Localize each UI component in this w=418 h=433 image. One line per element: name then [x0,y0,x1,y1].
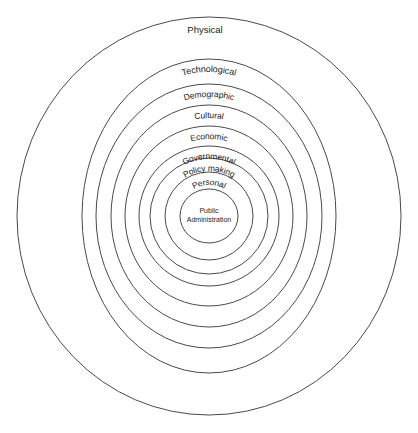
ring-label-text-economic: Economic [189,131,229,144]
concentric-circles-diagram: PhysicalTechnologicalDemographicCultural… [0,0,418,433]
ring-label-economic: Economic [189,131,229,144]
ring-label-cultural: Cultural [194,110,225,121]
ring-label-physical: Physical [187,24,222,35]
core-group: Public Administration [180,189,238,243]
core-label-line2: Administration [187,216,231,223]
ring-label-text-demographic: Demographic [183,89,237,103]
ring-label-technological: Technological [181,64,238,78]
diagram-canvas: PhysicalTechnologicalDemographicCultural… [0,0,418,433]
ring-label-text-cultural: Cultural [194,110,225,121]
ring-label-text-technological: Technological [181,64,238,78]
core-label-line1: Public [199,207,219,214]
ring-label-demographic: Demographic [183,89,237,103]
